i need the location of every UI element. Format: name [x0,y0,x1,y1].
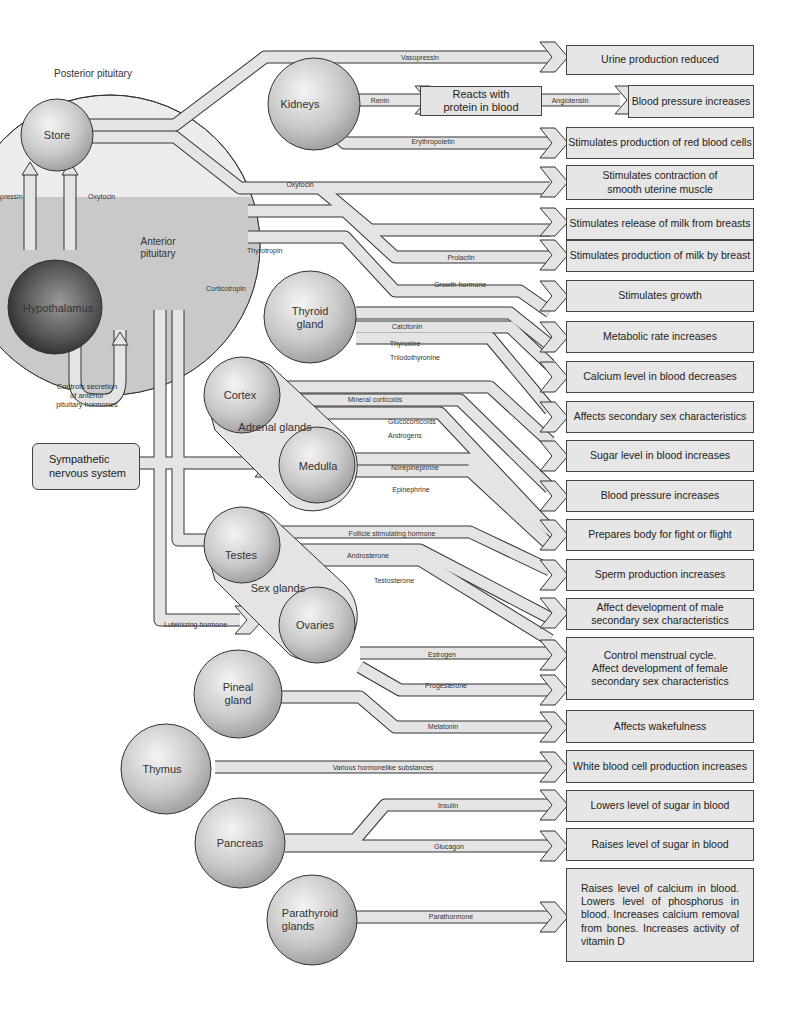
effect-3: Stimulates contraction of smooth uterine… [566,165,754,200]
hormone-various: Various hormonelike substances [333,764,434,771]
gland-ovaries: Ovaries [296,619,334,632]
hormone-testosterone: Testosterone [374,577,414,584]
gland-pineal: Pineal gland [223,681,254,706]
effect-17: White blood cell production increases [566,750,754,783]
effect-13: Sperm production increases [566,559,754,591]
hormone-vasopressin: Vasopressin [401,54,439,61]
anterior-pituitary-label: Anterior pituitary [140,236,175,260]
hormone-oxytocin-left: Oxytocin [88,193,115,200]
gland-kidneys: Kidneys [280,98,319,111]
gland-parathyroid: Parathyroid glands [282,907,338,932]
effect-15: Control menstrual cycle. Affect developm… [566,637,754,700]
hormone-mineral-corticoids: Mineral corticoids [348,396,402,403]
effect-4: Stimulates release of milk from breasts [566,208,754,240]
effect-1: Blood pressure increases [628,85,754,118]
effect-8: Calcium level in blood decreases [566,361,754,393]
hormone-growth: Growth hormone [434,281,486,288]
gland-hypothalamus: Hypothalamus [23,302,93,315]
effect-14: Affect development of male secondary sex… [566,598,754,630]
effect-7: Metabolic rate increases [566,321,754,353]
hormone-thyroxine: Thyroxine [390,340,421,347]
gland-pancreas: Pancreas [217,837,263,850]
gland-adrenal: Adrenal glands [238,421,311,434]
effect-10: Sugar level in blood increases [566,440,754,472]
hormone-luteinizing: Luteinizing hormone [164,621,227,628]
hormone-oxytocin: Oxytocin [286,181,313,188]
hormone-androgens: Androgens [388,432,422,439]
hormone-prolactin: Prolactin [447,254,474,261]
hormone-thyrotropin: Thyrotropin [247,247,282,254]
effect-12: Prepares body for fight or flight [566,519,754,551]
gland-testes: Testes [225,549,257,562]
hormone-insulin: Insulin [438,802,458,809]
hormone-norepinephrine: Norepinephrine [391,464,439,471]
effect-0: Urine production reduced [566,45,754,75]
posterior-pituitary-label: Posterior pituitary [54,68,132,80]
effect-9: Affects secondary sex characteristics [566,401,754,433]
controls-secretion-label: Controls secretion of anterior pituitary… [56,382,118,409]
reacts-with-protein-box: Reacts with protein in blood [420,86,542,116]
hormone-renin: Renin [371,97,389,104]
effect-20: Raises level of calcium in blood. Lowers… [566,868,754,962]
gland-thyroid: Thyroid gland [292,305,329,330]
effect-19: Raises level of sugar in blood [566,828,754,861]
gland-medulla: Medulla [299,460,338,473]
effect-6: Stimulates growth [566,280,754,312]
hormone-estrogen: Estrogen [428,651,456,658]
hormone-erythropoietin: Erythropoietin [411,138,454,145]
hormone-progesterone: Progesterone [425,682,467,689]
hormone-fsh: Follicle stimulating hormone [349,530,436,537]
effect-18: Lowers level of sugar in blood [566,790,754,822]
effect-16: Affects wakefulness [566,710,754,743]
hormone-androsterone: Androsterone [347,552,389,559]
effect-11: Blood pressure increases [566,480,754,512]
hormone-epinephrine: Epinephrine [392,486,429,493]
effect-5: Stimulates production of milk by breast [566,240,754,272]
gland-thymus: Thymus [142,763,181,776]
gland-store: Store [44,129,70,142]
gland-cortex: Cortex [224,389,256,402]
hormone-triiodothyronine: Triiodothyronine [390,354,440,361]
hormone-parathormone: Parathormone [429,913,473,920]
hormone-glucocorticoids: Glucocorticoids [388,418,436,425]
hormone-corticotropin: Corticotropin [206,285,246,292]
hormone-calcitonin: Calcitonin [392,323,423,330]
sympathetic-nervous-system-box: Sympathetic nervous system [32,443,140,490]
gland-sex-glands: Sex glands [251,582,305,595]
hormone-glucagon: Glucagon [434,843,464,850]
hormone-vasopressin-left: pressin [0,193,23,200]
effect-2: Stimulates production of red blood cells [566,127,754,159]
hormone-melatonin: Melatonin [428,723,458,730]
hormone-angiotensin: Angiotensin [552,97,589,104]
